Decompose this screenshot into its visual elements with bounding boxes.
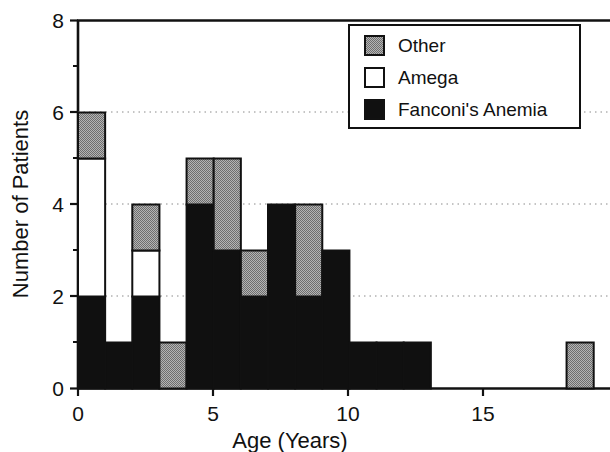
bar-segment: [214, 159, 241, 251]
y-tick-label-2: 2: [52, 285, 64, 308]
bar-segment: [132, 251, 159, 297]
bar-segment: [322, 251, 349, 389]
stacked-bar-chart: 0 2 4 6 8 Number of Patients 0 5 10 15 A…: [0, 0, 610, 452]
legend-label-other: Other: [398, 35, 446, 56]
bar-segment: [78, 297, 105, 389]
bar-segment: [295, 297, 322, 389]
x-tick-label-5: 5: [207, 402, 219, 425]
bar-segment: [78, 113, 105, 159]
x-tick-label-15: 15: [471, 402, 494, 425]
bar-segment: [132, 297, 159, 389]
bar-segment: [214, 251, 241, 389]
y-axis-title: Number of Patients: [8, 110, 33, 298]
bar-segment: [268, 205, 295, 389]
bar-segment: [404, 343, 431, 389]
legend-swatch-fanconis-anemia: [365, 100, 384, 119]
bar-segment: [567, 343, 594, 389]
legend-swatch-other: [365, 36, 384, 55]
bar-chart-figure: 0 2 4 6 8 Number of Patients 0 5 10 15 A…: [0, 0, 610, 452]
y-tick-label-6: 6: [52, 101, 64, 124]
x-tick-label-0: 0: [72, 402, 84, 425]
legend-label-amega: Amega: [398, 67, 459, 88]
bar-segment: [132, 205, 159, 251]
y-tick-label-0: 0: [52, 377, 64, 400]
bar-segment: [295, 205, 322, 297]
bar-segment: [159, 343, 186, 389]
y-tick-label-4: 4: [52, 193, 64, 216]
y-tick-label-8: 8: [52, 9, 64, 32]
bar-segment: [349, 343, 376, 389]
legend: Other Amega Fanconi's Anemia: [349, 25, 580, 128]
legend-label-fanconis-anemia: Fanconi's Anemia: [398, 99, 548, 120]
x-axis-title: Age (Years): [232, 428, 347, 452]
bar-segment: [241, 251, 268, 297]
bar-segment: [187, 159, 214, 205]
bar-segment: [187, 205, 214, 389]
x-tick-label-10: 10: [336, 402, 359, 425]
bar-segment: [377, 343, 404, 389]
bar-segment: [241, 297, 268, 389]
bar-segment: [78, 159, 105, 297]
bar-segment: [105, 343, 132, 389]
legend-swatch-amega: [365, 68, 384, 87]
